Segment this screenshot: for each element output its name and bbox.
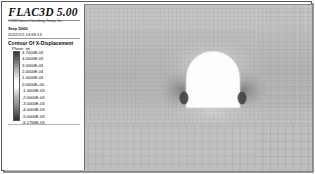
color-scale-value: -1.0000E-03 <box>22 88 45 94</box>
copyright-text: ©2012 Itasca Consulting Group, Inc. <box>8 19 63 23</box>
app-title: FLAC3D 5.00 <box>4 6 82 18</box>
color-scale-value: 4.0000E-03 <box>22 56 43 62</box>
color-scale-value: -5.0000E-03 <box>22 114 45 120</box>
color-scale-value: 3.0000E-03 <box>22 63 43 69</box>
timestamp-label: 2022/1/2 13:59:13 <box>8 32 42 37</box>
plot-window-frame: FLAC3D 5.00 ©2012 Itasca Consulting Grou… <box>1 1 312 171</box>
color-scale-value: -3.0000E-03 <box>22 101 45 107</box>
legend-panel: FLAC3D 5.00 ©2012 Itasca Consulting Grou… <box>4 4 85 170</box>
color-scale-values: 4.7000E-034.0000E-033.0000E-032.0000E-03… <box>22 50 82 122</box>
flac3d-screenshot: FLAC3D 5.00 ©2012 Itasca Consulting Grou… <box>0 0 315 174</box>
color-scale-value: 1.0000E-03 <box>22 75 43 81</box>
step-label: Step 5000 <box>8 26 28 31</box>
color-scale-value: 2.0000E-03 <box>22 69 43 75</box>
color-scale-bar <box>13 51 20 121</box>
legend-empty-area <box>4 125 84 170</box>
color-scale-value: 4.7000E-03 <box>22 50 43 56</box>
color-scale-value: 0.0000E+00 <box>22 82 44 88</box>
color-scale-value: -2.0000E-03 <box>22 95 45 101</box>
color-scale-value: -4.0000E-03 <box>22 107 45 113</box>
